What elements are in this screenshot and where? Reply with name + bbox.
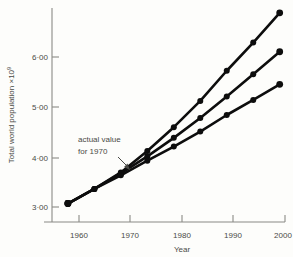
x-axis-title: Year — [174, 245, 191, 254]
data-point — [171, 124, 177, 130]
data-point — [197, 115, 203, 121]
series-line-0 — [68, 13, 280, 204]
annotation-line-2: for 1970 — [78, 147, 108, 156]
data-point — [276, 9, 283, 16]
x-tick-label-1960: 1960 — [70, 231, 88, 240]
data-point — [276, 48, 283, 55]
data-point — [91, 186, 97, 192]
y-tick-label-500: 5·00 — [32, 103, 49, 112]
y-tick-label-400: 4·00 — [32, 154, 49, 163]
y-axis-title: Total world population ×109 — [6, 67, 17, 163]
x-axis-ticks — [79, 215, 285, 222]
data-point — [64, 200, 71, 207]
data-point — [171, 135, 177, 141]
x-tick-label-1970: 1970 — [121, 231, 139, 240]
y-axis-ticks — [52, 57, 59, 207]
data-point — [144, 148, 150, 154]
data-point — [171, 144, 177, 150]
y-tick-label-300: 3·00 — [32, 203, 49, 212]
data-point — [276, 81, 283, 88]
data-point — [197, 129, 203, 135]
y-axis-title-exponent: 9 — [6, 67, 12, 70]
population-projection-chart: 6·00 5·00 4·00 3·00 1960 1970 1980 1990 … — [0, 0, 293, 257]
x-tick-label-1990: 1990 — [224, 231, 242, 240]
y-axis-title-text: Total world population ×10 — [7, 69, 16, 163]
y-tick-label-600: 6·00 — [32, 53, 49, 62]
data-point — [250, 71, 256, 77]
data-point — [224, 68, 230, 74]
data-point — [118, 172, 124, 178]
annotation-actual-value-1970: actual value for 1970 — [78, 135, 130, 170]
data-point — [224, 94, 230, 100]
x-tick-label-1980: 1980 — [173, 231, 191, 240]
data-point — [144, 158, 150, 164]
svg-text:Total world population ×109: Total world population ×109 — [6, 67, 17, 163]
data-point — [197, 98, 203, 104]
annotation-line-1: actual value — [78, 135, 121, 144]
series-0 — [64, 9, 283, 206]
data-point — [250, 40, 256, 46]
data-point — [250, 97, 256, 103]
data-point — [224, 112, 230, 118]
x-tick-label-2000: 2000 — [274, 231, 292, 240]
series-layer — [64, 9, 283, 206]
